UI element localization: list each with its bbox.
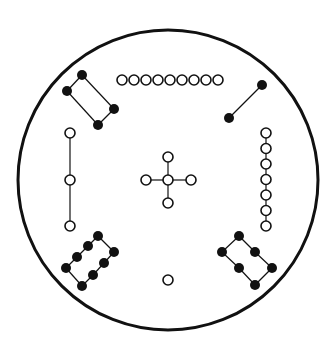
- white-dot: [141, 75, 151, 85]
- group-2-black-top-right: [224, 80, 267, 123]
- white-dot: [163, 275, 173, 285]
- black-dot: [93, 231, 103, 241]
- black-dot: [109, 247, 119, 257]
- connector-line: [229, 85, 262, 118]
- white-dot: [177, 75, 187, 85]
- black-dot: [88, 270, 98, 280]
- white-dot: [261, 206, 271, 216]
- white-dot: [163, 152, 173, 162]
- black-dot: [99, 258, 109, 268]
- black-dot: [93, 120, 103, 130]
- black-dot: [77, 281, 87, 291]
- black-dot: [77, 70, 87, 80]
- black-dot: [257, 80, 267, 90]
- group-1-white-bottom: [163, 275, 173, 285]
- black-dot: [72, 252, 82, 262]
- group-3-white-left: [65, 128, 75, 231]
- black-dot: [267, 263, 277, 273]
- white-dot: [261, 190, 271, 200]
- white-dot: [261, 159, 271, 169]
- group-6-black-bottom-right: [217, 231, 277, 290]
- black-dot: [234, 263, 244, 273]
- dot-groups: [61, 70, 277, 291]
- black-dot: [62, 86, 72, 96]
- group-4-black-top-left: [62, 70, 119, 130]
- white-dot: [261, 144, 271, 154]
- black-dot: [250, 280, 260, 290]
- white-dot: [65, 221, 75, 231]
- black-dot: [83, 241, 93, 251]
- group-7-white-right: [261, 128, 271, 231]
- white-dot: [163, 175, 173, 185]
- white-dot: [153, 75, 163, 85]
- white-dot: [65, 175, 75, 185]
- white-dot: [141, 175, 151, 185]
- white-dot: [201, 75, 211, 85]
- white-dot: [261, 175, 271, 185]
- white-dot: [189, 75, 199, 85]
- black-dot: [217, 247, 227, 257]
- group-5-white-center: [141, 152, 196, 208]
- connector-line: [67, 91, 98, 125]
- connector-line: [82, 75, 114, 109]
- white-dot: [65, 128, 75, 138]
- black-dot: [250, 247, 260, 257]
- white-dot: [117, 75, 127, 85]
- white-dot: [261, 128, 271, 138]
- black-dot: [234, 231, 244, 241]
- group-8-black-bottom-left: [61, 231, 119, 291]
- white-dot: [261, 221, 271, 231]
- white-dot: [186, 175, 196, 185]
- white-dot: [163, 198, 173, 208]
- black-dot: [224, 113, 234, 123]
- black-dot: [109, 104, 119, 114]
- white-dot: [165, 75, 175, 85]
- black-dot: [61, 263, 71, 273]
- white-dot: [213, 75, 223, 85]
- lo-shu-diagram: [0, 0, 335, 351]
- group-9-white-top: [117, 75, 223, 85]
- white-dot: [129, 75, 139, 85]
